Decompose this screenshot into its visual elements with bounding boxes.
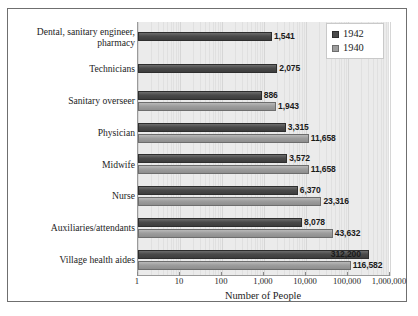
- x-axis-tick-label: 100,000: [333, 276, 361, 286]
- gridline-major: [264, 22, 265, 276]
- bar-1940: [138, 197, 321, 206]
- gridline-major: [222, 22, 223, 276]
- gridline-minor: [388, 22, 389, 276]
- gridline-minor: [235, 22, 236, 276]
- legend-label-1940: 1940: [343, 42, 364, 54]
- legend-label-1942: 1942: [343, 28, 364, 40]
- data-label-1942: 312,200: [331, 250, 361, 259]
- category-label: Nurse: [13, 191, 135, 202]
- bar-1942: [138, 154, 287, 163]
- x-axis-tick-label: 10: [175, 276, 184, 286]
- bar-1942: [138, 123, 286, 132]
- gridline-minor: [218, 22, 219, 276]
- bar-1942: [138, 64, 277, 73]
- gridline-minor: [260, 22, 261, 276]
- gridline-minor: [213, 22, 214, 276]
- gridline-minor: [262, 22, 263, 276]
- bar-1942: [138, 218, 302, 227]
- data-label-1940: 116,582: [353, 261, 383, 270]
- gridline-minor: [151, 22, 152, 276]
- gridline-minor: [293, 22, 294, 276]
- gridline-major: [180, 22, 181, 276]
- gridline-minor: [344, 22, 345, 276]
- data-label-1942: 2,075: [279, 64, 300, 73]
- data-label-1940: 23,316: [323, 197, 348, 206]
- legend-item-1942: 1942: [332, 27, 379, 41]
- x-axis-tick-label: 100: [215, 276, 228, 286]
- x-axis-tick-label: 1,000,000: [372, 276, 406, 286]
- gridline-minor: [247, 22, 248, 276]
- gridline-minor: [346, 22, 347, 276]
- gridline-minor: [200, 22, 201, 276]
- gridline-minor: [167, 22, 168, 276]
- chart-legend: 1942 1940: [326, 23, 384, 59]
- gridline-minor: [257, 22, 258, 276]
- x-axis-tick-label: 1: [135, 276, 139, 286]
- legend-swatch-icon-1942: [332, 31, 339, 38]
- category-label: Village health aides: [13, 255, 135, 266]
- data-label-1942: 1,541: [274, 32, 295, 41]
- bar-1940: [138, 229, 333, 238]
- gridline-minor: [163, 22, 164, 276]
- data-label-1942: 886: [264, 91, 278, 100]
- gridline-minor: [341, 22, 342, 276]
- gridline-minor: [242, 22, 243, 276]
- gridline-minor: [215, 22, 216, 276]
- gridline-minor: [171, 22, 172, 276]
- bar-1940: [138, 261, 351, 270]
- data-label-1942: 8,078: [304, 218, 325, 227]
- x-axis-tick-label: 10,000: [293, 276, 317, 286]
- gridline-minor: [209, 22, 210, 276]
- gridline-minor: [176, 22, 177, 276]
- gridline-major: [306, 22, 307, 276]
- data-label-1940: 11,658: [311, 165, 336, 174]
- gridline-minor: [383, 22, 384, 276]
- gridline-minor: [377, 22, 378, 276]
- gridline-minor: [361, 22, 362, 276]
- data-label-1942: 3,315: [288, 123, 309, 132]
- chart-frame: Dental, sanitary engineer, pharmacyTechn…: [7, 8, 407, 302]
- category-label: Technicians: [13, 64, 135, 75]
- gridline-minor: [339, 22, 340, 276]
- gridline-major: [390, 22, 391, 276]
- gridline-minor: [205, 22, 206, 276]
- gridline-minor: [158, 22, 159, 276]
- x-axis-tick-labels: 1101001,00010,000100,0001,000,000: [137, 276, 389, 290]
- gridline-minor: [335, 22, 336, 276]
- gridline-minor: [326, 22, 327, 276]
- data-label-1940: 1,943: [278, 102, 299, 111]
- category-label: Sanitary overseer: [13, 96, 135, 107]
- bar-1940: [138, 134, 309, 143]
- gridline-minor: [178, 22, 179, 276]
- bar-1942: [138, 91, 262, 100]
- gridline-minor: [299, 22, 300, 276]
- gridline-minor: [251, 22, 252, 276]
- gridline-major: [348, 22, 349, 276]
- gridline-minor: [255, 22, 256, 276]
- gridline-minor: [319, 22, 320, 276]
- category-label: Auxiliaries/attendants: [13, 223, 135, 234]
- gridline-minor: [386, 22, 387, 276]
- bar-1942: [138, 186, 298, 195]
- data-label-1942: 3,572: [289, 154, 310, 163]
- gridline-minor: [304, 22, 305, 276]
- category-label: Dental, sanitary engineer, pharmacy: [13, 27, 135, 48]
- category-label: Midwife: [13, 160, 135, 171]
- gridline-minor: [373, 22, 374, 276]
- gridline-minor: [284, 22, 285, 276]
- gridline-minor: [173, 22, 174, 276]
- data-label-1940: 11,658: [311, 134, 336, 143]
- gridline-minor: [368, 22, 369, 276]
- gridline-minor: [381, 22, 382, 276]
- bar-1940: [138, 165, 309, 174]
- bar-1942: [138, 32, 272, 41]
- plot-area: 1,5412,0758861,9433,31511,6583,57211,658…: [137, 22, 389, 276]
- category-label: Physician: [13, 128, 135, 139]
- data-label-1940: 43,632: [335, 229, 360, 238]
- gridline-minor: [193, 22, 194, 276]
- legend-swatch-icon-1940: [332, 45, 339, 52]
- x-axis-tick-label: 1,000: [253, 276, 272, 286]
- gridline-minor: [220, 22, 221, 276]
- x-axis-title: Number of People: [137, 290, 389, 301]
- gridline-minor: [277, 22, 278, 276]
